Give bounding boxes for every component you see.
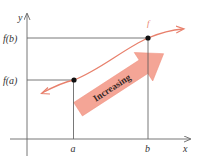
curve-f-label: f [147,18,151,28]
increasing-function-diagram: Increasing y x f(b) f(a) a b f [0,0,202,160]
fa-label: f(a) [3,75,18,87]
point-fa [71,77,76,82]
b-label: b [145,143,150,154]
fb-label: f(b) [3,33,18,45]
a-label: a [71,143,76,154]
point-fb [145,35,150,40]
increasing-arrow: Increasing [69,39,173,123]
y-axis-label: y [17,12,23,23]
x-axis-label: x [182,143,188,154]
